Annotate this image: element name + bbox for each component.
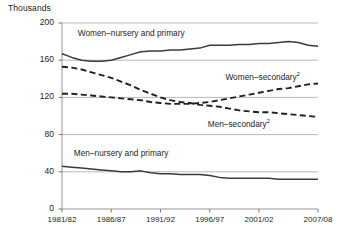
y-axis-tick-label: 0: [28, 203, 54, 213]
series-label-3: Men–nursery and primary: [74, 148, 169, 158]
series-label-text: Men–nursery and primary: [74, 148, 169, 158]
y-axis-tick-label: 80: [28, 129, 54, 139]
gridlines: [62, 23, 318, 209]
series-lines: [62, 42, 318, 180]
y-axis-tick-label: 200: [28, 17, 54, 27]
series-label-0: Women–nursery and primary: [78, 28, 185, 38]
x-axis-tick-label: 1981/82: [34, 215, 90, 224]
series-label-text: Women–nursery and primary: [78, 28, 185, 38]
x-axis-tick-label: 2007/08: [290, 215, 337, 224]
series-label-text: Women–secondary: [225, 72, 296, 82]
x-axis-ticks: [62, 209, 318, 213]
x-axis-tick-label: 1986/87: [83, 215, 139, 224]
x-axis-tick-label: 2001/02: [231, 215, 287, 224]
series-line-0: [62, 42, 318, 62]
series-label-footnote: 2: [297, 71, 300, 77]
y-axis-ticks: [59, 23, 63, 209]
x-axis-tick-label: 1996/97: [182, 215, 238, 224]
series-label-text: Men–secondary: [208, 119, 267, 129]
series-line-1: [62, 83, 318, 103]
series-label-1: Women–secondary2: [225, 72, 299, 82]
series-line-3: [62, 166, 318, 179]
y-axis-tick-label: 120: [28, 91, 54, 101]
y-axis-tick-label: 40: [28, 166, 54, 176]
series-label-2: Men–secondary2: [208, 119, 270, 129]
y-axis-tick-label: 160: [28, 54, 54, 64]
series-label-footnote: 2: [267, 119, 270, 125]
x-axis-tick-label: 1991/92: [132, 215, 188, 224]
